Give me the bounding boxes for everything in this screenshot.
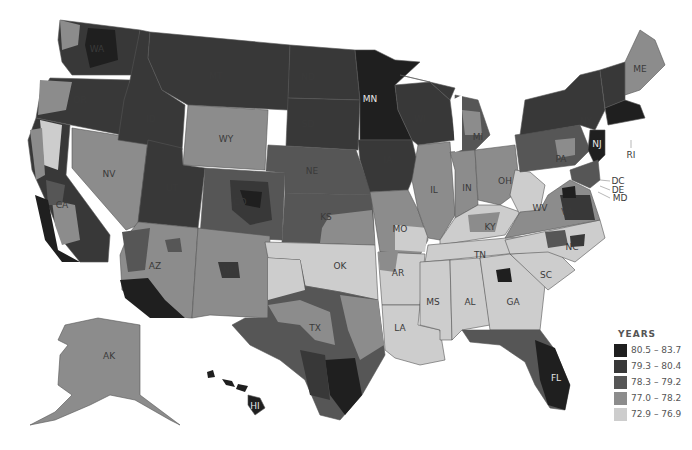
label-ar: AR bbox=[392, 268, 404, 278]
legend-item: 77.0 – 78.2 bbox=[614, 390, 692, 406]
label-ok: OK bbox=[334, 261, 348, 271]
label-ms: MS bbox=[426, 297, 440, 307]
state-nd bbox=[288, 45, 360, 100]
label-nj: NJ bbox=[592, 139, 601, 149]
label-la: LA bbox=[394, 323, 406, 333]
lake-michigan bbox=[452, 95, 462, 152]
legend-item: 79.3 – 80.4 bbox=[614, 358, 692, 374]
legend-label: 80.5 – 83.7 bbox=[631, 345, 681, 355]
label-tn: TN bbox=[473, 250, 486, 260]
label-ky: KY bbox=[484, 222, 496, 232]
legend-swatch bbox=[614, 376, 627, 389]
legend-title: YEARS bbox=[618, 329, 692, 339]
label-nc: NC bbox=[565, 242, 578, 252]
label-md: MD bbox=[613, 193, 628, 203]
state-ar bbox=[378, 252, 425, 305]
label-wv: WV bbox=[532, 203, 548, 213]
legend-item: 78.3 – 79.2 bbox=[614, 374, 692, 390]
label-al: AL bbox=[464, 297, 475, 307]
label-nm: NM bbox=[223, 265, 238, 275]
label-pa: PA bbox=[555, 154, 567, 164]
label-ne: NE bbox=[306, 166, 319, 176]
legend-item: 80.5 – 83.7 bbox=[614, 342, 692, 358]
state-sd bbox=[286, 98, 360, 150]
label-ny: NY bbox=[580, 116, 593, 126]
state-me bbox=[625, 30, 665, 95]
label-ut: UT bbox=[166, 183, 179, 193]
state-ak bbox=[30, 318, 180, 425]
state-ny bbox=[520, 70, 605, 135]
label-az: AZ bbox=[149, 261, 161, 271]
label-me: ME bbox=[633, 64, 647, 74]
label-ak: AK bbox=[103, 351, 116, 361]
label-wa: WA bbox=[90, 44, 105, 54]
label-or: OR bbox=[73, 95, 86, 105]
label-fl: FL bbox=[551, 373, 561, 383]
label-wy: WY bbox=[219, 134, 234, 144]
label-mo: MO bbox=[393, 224, 408, 234]
legend-label: 72.9 – 76.9 bbox=[631, 409, 681, 419]
label-mi: MI bbox=[473, 132, 483, 142]
label-sc: SC bbox=[540, 270, 552, 280]
legend-label: 79.3 – 80.4 bbox=[631, 361, 681, 371]
label-tx: TX bbox=[308, 323, 321, 333]
label-ga: GA bbox=[506, 297, 520, 307]
label-sd: SD bbox=[302, 119, 315, 129]
legend-swatch bbox=[614, 344, 627, 357]
label-wi: WI bbox=[414, 114, 426, 124]
state-fl bbox=[462, 330, 570, 410]
label-in: IN bbox=[462, 183, 471, 193]
us-life-expectancy-map: WA OR CA NV ID MT WY UT CO AZ NM ND SD N… bbox=[0, 0, 692, 450]
label-ca: CA bbox=[56, 200, 69, 210]
label-mn: MN bbox=[363, 94, 378, 104]
label-ia: IA bbox=[384, 155, 394, 165]
label-nv: NV bbox=[103, 169, 117, 179]
label-id: ID bbox=[146, 114, 156, 124]
legend-swatch bbox=[614, 408, 627, 421]
label-ks: KS bbox=[320, 212, 332, 222]
label-ri: RI bbox=[627, 150, 636, 160]
legend-label: 78.3 – 79.2 bbox=[631, 377, 681, 387]
label-va: VA bbox=[561, 207, 574, 217]
label-nd: ND bbox=[301, 72, 315, 82]
label-hi: HI bbox=[250, 401, 259, 411]
legend-label: 77.0 – 78.2 bbox=[631, 393, 681, 403]
label-il: IL bbox=[430, 185, 438, 195]
label-co: CO bbox=[233, 197, 246, 207]
legend-item: 72.9 – 76.9 bbox=[614, 406, 692, 422]
legend-swatch bbox=[614, 392, 627, 405]
label-mt: MT bbox=[209, 71, 223, 81]
label-oh: OH bbox=[498, 176, 512, 186]
legend: YEARS 80.5 – 83.7 79.3 – 80.4 78.3 – 79.… bbox=[614, 329, 692, 422]
legend-swatch bbox=[614, 360, 627, 373]
